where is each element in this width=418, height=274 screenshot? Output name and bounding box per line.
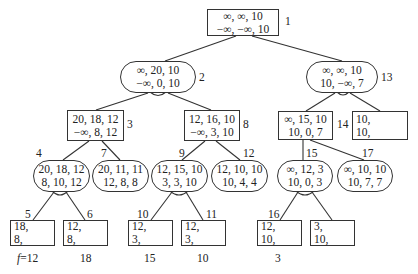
f-value-11: 10: [197, 252, 209, 264]
node-label-4: 4: [36, 147, 42, 159]
node-15-line1: ∞, 12, 3: [287, 163, 324, 176]
f-value-10: 15: [144, 252, 156, 264]
node-label-11: 11: [206, 208, 217, 220]
node-3-line2: −∞, 8, 12: [74, 126, 117, 139]
node-13b-line1: 10,: [356, 113, 370, 126]
node-10-line2: 3,: [132, 233, 141, 246]
node-13-line2: 10, −∞, 7: [320, 77, 363, 90]
tree-node-7: 20, 11, 11 12, 8, 8: [92, 160, 149, 192]
node-label-10: 10: [137, 208, 149, 220]
tree-node-11: 12, 3,: [181, 220, 226, 246]
node-9-line1: 12, 15, 10: [157, 163, 203, 176]
tree-node-4: 20, 18, 12 8, 10, 12: [33, 160, 90, 192]
node-label-5: 5: [25, 208, 31, 220]
node-label-3: 3: [127, 118, 133, 130]
node-8-line1: 12, 16, 10: [189, 113, 235, 126]
node-5-line1: 18,: [14, 220, 28, 233]
node-label-17: 17: [362, 147, 374, 159]
node-12-line2: 10, 4, 4: [222, 176, 257, 189]
tree-node-15: ∞, 12, 3 10, 0, 3: [277, 160, 333, 192]
node-17-line1: ∞, 10, 10: [344, 163, 387, 176]
f-value-6: 18: [80, 252, 92, 264]
node-4-line2: 8, 10, 12: [41, 176, 81, 189]
node-14-line2: 10, 0, 7: [288, 126, 323, 139]
f-value-5: f=12: [17, 252, 38, 264]
tree-node-2: ∞, 20, 10 −∞, 0, 10: [120, 61, 196, 93]
node-label-1: 1: [285, 15, 291, 27]
tree-node-13-right-child: 10, 10,: [352, 111, 408, 140]
node-9-line2: 3, 3, 10: [162, 176, 197, 189]
node-5-line2: 8,: [14, 233, 23, 246]
tree-node-9: 12, 15, 10 3, 3, 10: [151, 160, 208, 192]
node-6-line1: 12,: [67, 220, 81, 233]
node-15-line2: 10, 0, 3: [288, 176, 323, 189]
tree-node-1: ∞, ∞, 10 −∞, −∞, 10: [207, 9, 279, 36]
node-11-line2: 3,: [185, 233, 194, 246]
tree-node-5: 18, 8,: [10, 220, 55, 246]
tree-node-13: ∞, ∞, 10 10, −∞, 7: [306, 61, 378, 93]
node-12-line1: 12, 10, 10: [217, 163, 263, 176]
tree-node-17: ∞, 10, 10 10, 7, 7: [337, 160, 393, 192]
node-17-line2: 10, 7, 7: [348, 176, 383, 189]
node-10-line1: 12,: [132, 220, 146, 233]
node-13b-line2: 10,: [356, 126, 370, 139]
node-16b-line2: 10,: [314, 233, 328, 246]
node-label-2: 2: [199, 71, 205, 83]
tree-node-10: 12, 3,: [128, 220, 173, 246]
node-16b-line1: 3,: [314, 220, 323, 233]
node-label-13: 13: [381, 71, 393, 83]
node-label-14: 14: [337, 118, 349, 130]
node-16-line1: 12,: [261, 220, 275, 233]
node-16-line2: 10,: [261, 233, 275, 246]
node-7-line1: 20, 11, 11: [98, 163, 143, 176]
node-1-line1: ∞, ∞, 10: [223, 10, 262, 23]
f-value-16: 3: [275, 252, 281, 264]
node-6-line2: 8,: [67, 233, 76, 246]
tree-node-6: 12, 8,: [63, 220, 108, 246]
node-label-6: 6: [87, 208, 93, 220]
tree-node-8: 12, 16, 10 −∞, 3, 10: [184, 110, 240, 141]
node-8-line2: −∞, 3, 10: [190, 126, 233, 139]
tree-node-12: 12, 10, 10 10, 4, 4: [211, 160, 268, 192]
tree-node-16: 12, 10,: [257, 220, 302, 246]
node-label-16: 16: [268, 208, 280, 220]
node-4-line1: 20, 18, 12: [39, 163, 85, 176]
node-label-9: 9: [179, 147, 185, 159]
node-1-line2: −∞, −∞, 10: [217, 23, 269, 36]
node-label-7: 7: [101, 147, 107, 159]
node-3-line1: 20, 18, 12: [73, 113, 119, 126]
node-label-8: 8: [243, 118, 249, 130]
tree-node-14: ∞, 15, 10 10, 0, 7: [278, 111, 333, 140]
node-label-12: 12: [243, 147, 255, 159]
node-2-line1: ∞, 20, 10: [137, 64, 180, 77]
tree-node-15-right-child: 3, 10,: [310, 220, 355, 246]
node-11-line1: 12,: [185, 220, 199, 233]
node-7-line2: 12, 8, 8: [103, 176, 138, 189]
node-label-15: 15: [306, 147, 318, 159]
node-2-line2: −∞, 0, 10: [136, 77, 179, 90]
node-13-line1: ∞, ∞, 10: [322, 64, 361, 77]
node-14-line1: ∞, 15, 10: [284, 113, 327, 126]
tree-node-3: 20, 18, 12 −∞, 8, 12: [67, 110, 124, 141]
